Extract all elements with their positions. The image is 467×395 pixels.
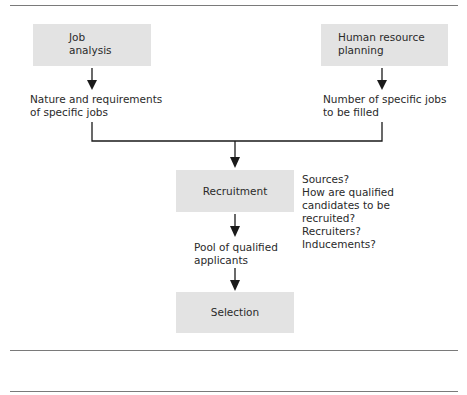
- arrowhead-icon: [230, 226, 240, 237]
- arrowhead-icon: [230, 157, 240, 168]
- middle-rule: [10, 350, 458, 351]
- connectors: [0, 0, 467, 395]
- arrowhead-icon: [230, 280, 240, 291]
- arrowhead-icon: [377, 80, 387, 90]
- bottom-rule: [10, 391, 458, 392]
- arrowhead-icon: [87, 80, 97, 90]
